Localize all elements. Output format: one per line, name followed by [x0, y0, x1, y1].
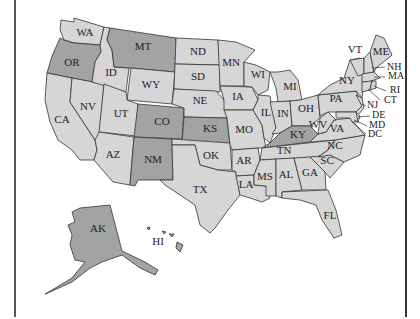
state-label-ct: CT [384, 94, 397, 105]
state-label-ky: KY [290, 128, 306, 140]
state-label-nd: ND [190, 45, 206, 57]
state-label-fl: FL [324, 209, 337, 221]
state-label-ma: MA [388, 70, 405, 81]
state-label-ms: MS [257, 170, 273, 182]
state-label-ia: IA [232, 90, 244, 102]
state-label-mi: MI [283, 80, 297, 92]
us-map: WAORCANVIDMTWYUTAZCONMNDSDNEKSOKTXMNIAMO… [0, 0, 420, 319]
state-label-dc: DC [368, 128, 382, 139]
state-label-la: LA [239, 178, 254, 190]
state-ak[interactable] [45, 205, 158, 294]
state-label-ca: CA [54, 113, 69, 125]
state-label-nm: NM [144, 153, 162, 165]
state-label-ny: NY [339, 74, 355, 86]
state-label-in: IN [277, 107, 289, 119]
state-label-va: VA [330, 122, 345, 134]
state-label-hi: HI [152, 235, 164, 247]
state-label-nv: NV [80, 100, 96, 112]
state-label-il: IL [261, 106, 272, 118]
state-label-ok: OK [203, 149, 219, 161]
state-label-or: OR [64, 56, 80, 68]
state-label-me: ME [373, 45, 390, 57]
state-label-az: AZ [106, 148, 121, 160]
state-label-pa: PA [329, 92, 342, 104]
state-label-ga: GA [302, 166, 318, 178]
state-label-mo: MO [235, 123, 253, 135]
state-label-mt: MT [135, 40, 152, 52]
state-label-ut: UT [114, 107, 129, 119]
state-label-wv: WV [309, 118, 327, 130]
state-label-co: CO [154, 115, 169, 127]
state-label-al: AL [279, 168, 294, 180]
state-label-tn: TN [277, 144, 292, 156]
state-label-ar: AR [236, 154, 252, 166]
state-label-tx: TX [193, 183, 208, 195]
state-label-nc: NC [327, 139, 342, 151]
state-label-vt: VT [348, 43, 363, 55]
state-label-id: ID [105, 66, 117, 78]
state-label-sd: SD [191, 70, 205, 82]
state-label-ak: AK [90, 222, 106, 234]
state-label-sc: SC [320, 154, 333, 166]
state-label-ne: NE [193, 94, 208, 106]
state-label-wa: WA [76, 26, 93, 38]
state-label-wy: WY [142, 78, 160, 90]
state-label-oh: OH [298, 102, 314, 114]
state-label-ks: KS [203, 122, 217, 134]
state-label-mn: MN [222, 56, 240, 68]
state-label-wi: WI [251, 68, 265, 80]
